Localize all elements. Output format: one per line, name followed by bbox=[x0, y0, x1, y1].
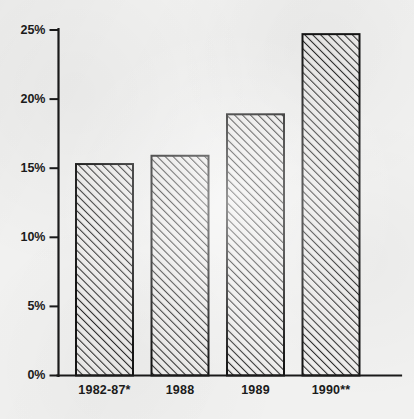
x-axis-tick-label: 1988 bbox=[166, 383, 195, 397]
chart-canvas: 0%5%10%15%20%25% 1982-87*198819891990** bbox=[0, 0, 414, 419]
y-axis-tick-label: 15% bbox=[20, 161, 45, 175]
y-axis-ticks bbox=[50, 30, 59, 376]
x-axis-tick-label: 1982-87* bbox=[78, 383, 130, 397]
bar-fill bbox=[76, 164, 133, 375]
x-axis-tick-label: 1990** bbox=[312, 383, 351, 397]
y-axis: 0%5%10%15%20%25% bbox=[20, 23, 58, 383]
y-axis-tick-label: 25% bbox=[20, 23, 45, 37]
bar-fill bbox=[303, 34, 360, 375]
y-axis-tick-label: 5% bbox=[27, 299, 45, 313]
bar-fill bbox=[152, 156, 209, 376]
bar-chart: 0%5%10%15%20%25% 1982-87*198819891990** bbox=[0, 0, 414, 419]
x-axis-tick-label: 1989 bbox=[241, 383, 270, 397]
x-axis-tick-labels: 1982-87*198819891990** bbox=[78, 383, 350, 397]
bar-series bbox=[76, 34, 360, 375]
y-axis-tick-label: 10% bbox=[20, 230, 45, 244]
x-axis: 1982-87*198819891990** bbox=[58, 376, 402, 398]
bar-fill bbox=[227, 114, 284, 375]
y-axis-tick-labels: 0%5%10%15%20%25% bbox=[20, 23, 45, 383]
y-axis-tick-label: 20% bbox=[20, 92, 45, 106]
y-axis-tick-label: 0% bbox=[27, 368, 45, 382]
